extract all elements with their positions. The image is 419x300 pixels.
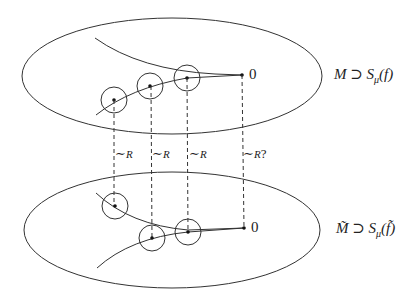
dashed-link-2 — [151, 86, 152, 238]
upper-label-arg: (f) — [379, 66, 393, 82]
relation-symbol: ∼ — [243, 146, 254, 161]
relation-label-1: ∼R — [115, 146, 133, 162]
upper-label-text: M ⊃ S — [334, 66, 374, 82]
lower-label-arg: (f̃) — [381, 220, 395, 236]
relation-sub: R — [200, 148, 207, 160]
relation-sub: R — [254, 148, 261, 160]
upper-origin-label: 0 — [249, 66, 257, 83]
lower-origin-label: 0 — [251, 219, 259, 236]
lower-manifold-label: M̃ ⊃ Sμ(f̃) — [336, 219, 395, 239]
lower-point-2 — [150, 236, 154, 240]
relation-symbol: ∼ — [189, 146, 200, 161]
upper-manifold-label: M ⊃ Sμ(f) — [334, 65, 393, 85]
lower-point-1 — [113, 204, 117, 208]
relation-question-mark: ? — [261, 146, 267, 161]
upper-manifold-ellipse — [22, 18, 322, 134]
lower-curve-top — [96, 193, 244, 230]
relation-label-3: ∼R — [189, 146, 207, 162]
upper-curve-top — [95, 38, 242, 75]
relation-symbol: ∼ — [152, 146, 163, 161]
relation-label-4: ∼R? — [243, 146, 266, 162]
relation-sub: R — [126, 148, 133, 160]
lower-manifold-ellipse — [24, 172, 320, 288]
relation-symbol: ∼ — [115, 146, 126, 161]
dashed-link-3 — [187, 78, 188, 232]
relation-sub: R — [163, 148, 170, 160]
upper-curve-bottom — [96, 75, 242, 115]
lower-label-text: M̃ ⊃ S — [336, 220, 376, 236]
lower-origin-point — [242, 226, 246, 230]
diagram-canvas — [0, 0, 419, 300]
relation-label-2: ∼R — [152, 146, 170, 162]
lower-point-3 — [186, 230, 190, 234]
lower-curve-bottom — [97, 228, 244, 268]
